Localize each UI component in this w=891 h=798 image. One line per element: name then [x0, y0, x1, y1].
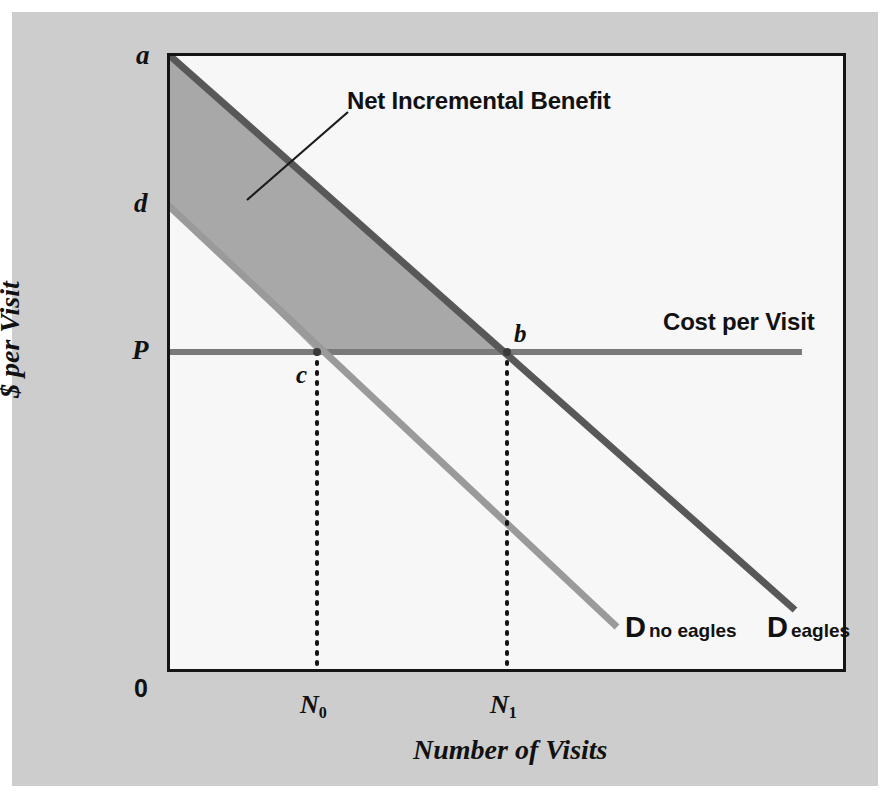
point-label-c: c	[296, 362, 307, 387]
point-label-d: d	[134, 190, 148, 217]
plot-frame	[167, 53, 846, 672]
figure-root: a d P 0 c b N0 N1 Number of Visits $ per…	[0, 0, 891, 798]
curve-label-eagles-subscript: eagles	[788, 620, 850, 641]
axis-label-price: P	[132, 337, 149, 364]
curve-label-eagles-letter: D	[767, 611, 788, 643]
net-benefit-annotation: Net Incremental Benefit	[347, 89, 610, 113]
axis-origin-label: 0	[134, 676, 148, 701]
cost-per-visit-annotation: Cost per Visit	[663, 310, 814, 334]
x-tick-label-n0: N0	[300, 692, 327, 718]
curve-label-no-eagles-subscript: no eagles	[646, 620, 737, 641]
x-tick-n1-subscript: 1	[509, 704, 517, 721]
x-tick-n1-base: N	[490, 690, 509, 719]
x-tick-label-n1: N1	[490, 692, 517, 718]
curve-label-eagles: Deagles	[767, 613, 850, 642]
x-tick-n0-base: N	[300, 690, 319, 719]
x-axis-title: Number of Visits	[413, 736, 607, 764]
point-label-b: b	[514, 321, 527, 346]
y-axis-title: $ per Visit	[0, 281, 24, 398]
point-label-a: a	[136, 42, 150, 69]
curve-label-no-eagles: Dno eagles	[625, 613, 737, 642]
x-tick-n0-subscript: 0	[319, 704, 327, 721]
curve-label-no-eagles-letter: D	[625, 611, 646, 643]
